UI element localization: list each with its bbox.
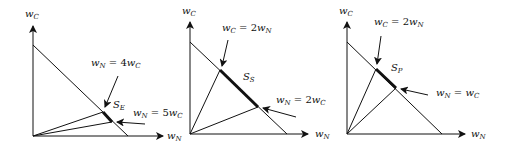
segment-highlight [103,112,112,122]
y-axis-label: wC [25,8,40,21]
upper-label: wC = 2wN [222,22,273,35]
lower-label: wN = 2wC [276,94,326,107]
x-axis-label: wN [471,128,487,141]
segment-label: SE [113,99,125,112]
ray-upper [347,69,376,134]
y-axis-label: wC [339,5,354,18]
lower-label: wN = wC [436,87,480,100]
x-axis-label: wN [315,128,331,141]
upper-label: wN = 4wC [91,57,141,70]
ray-lower [33,122,112,136]
ray-lower [347,88,396,134]
upper-label: wC = 2wN [374,16,425,29]
panel-p: wC wN wC = 2wN SP wN = wC [339,5,487,141]
y-axis-label: wC [182,5,197,18]
diagram-canvas: wC wN wN = 4wC SE wN = 5wC wC wN wC = 2w… [0,0,508,148]
lower-label: wN = 5wC [133,107,183,120]
panel-s: wC wN wC = 2wN SS wN = 2wC [182,5,331,141]
segment-label: SS [243,71,255,84]
ray-lower [190,107,258,134]
x-axis-label: wN [167,130,183,143]
arrow-lower [401,89,428,95]
arrow-lower [117,122,145,124]
ray-upper [33,112,103,136]
arrow-upper [377,36,381,64]
arrow-upper [222,40,228,66]
panel-egalitarian: wC wN wN = 4wC SE wN = 5wC [25,8,183,143]
segment-label: SP [391,62,403,75]
